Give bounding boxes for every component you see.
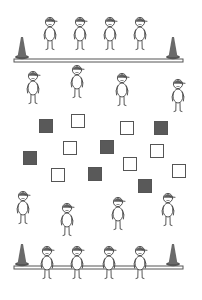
scene-canvas	[0, 0, 202, 300]
cone-icon	[166, 244, 180, 266]
child-figure	[61, 203, 74, 235]
light-square	[124, 158, 137, 171]
light-square	[121, 122, 134, 135]
light-square	[151, 145, 164, 158]
child-figure	[112, 197, 125, 229]
child-figure	[74, 17, 87, 49]
light-square	[64, 142, 77, 155]
child-figure	[71, 246, 84, 278]
dark-square	[40, 120, 53, 133]
bench	[14, 59, 183, 62]
dark-square	[24, 152, 37, 165]
child-figure	[134, 246, 147, 278]
child-figure	[172, 79, 185, 111]
light-square	[72, 115, 85, 128]
cone-icon	[15, 37, 29, 59]
child-figure	[71, 65, 84, 97]
bench	[14, 266, 183, 269]
child-figure	[116, 73, 129, 105]
dark-square	[101, 141, 114, 154]
child-figure	[44, 17, 57, 49]
child-figure	[162, 193, 175, 225]
child-figure	[104, 17, 117, 49]
child-figure	[134, 17, 147, 49]
child-figure	[27, 71, 40, 103]
child-figure	[103, 246, 116, 278]
dark-square	[155, 122, 168, 135]
light-square	[173, 165, 186, 178]
child-figure	[17, 191, 30, 223]
dark-square	[139, 180, 152, 193]
dark-square	[89, 168, 102, 181]
cone-icon	[15, 244, 29, 266]
child-figure	[41, 246, 54, 278]
cone-icon	[166, 37, 180, 59]
light-square	[52, 169, 65, 182]
